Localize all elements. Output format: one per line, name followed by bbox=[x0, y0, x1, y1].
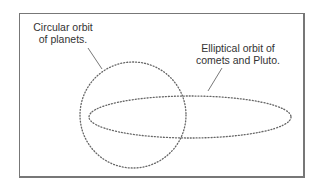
circular-orbit bbox=[80, 62, 186, 168]
elliptical-orbit bbox=[89, 96, 291, 138]
circular-orbit-label: Circular orbit of planets. bbox=[28, 21, 98, 45]
elliptical-label-line2: comets and Pluto. bbox=[188, 54, 288, 66]
elliptical-label-line1: Elliptical orbit of bbox=[188, 42, 288, 54]
circular-label-line2: of planets. bbox=[28, 33, 98, 45]
circular-leader-line bbox=[88, 48, 102, 69]
elliptical-orbit-label: Elliptical orbit of comets and Pluto. bbox=[188, 42, 288, 66]
circular-label-line1: Circular orbit bbox=[28, 21, 98, 33]
elliptical-leader-line bbox=[208, 68, 222, 91]
